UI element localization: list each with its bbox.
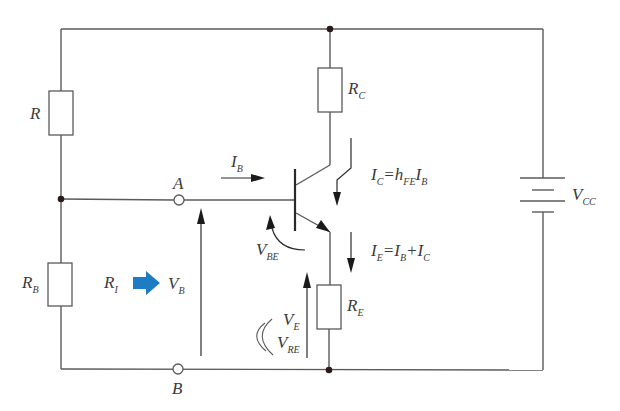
- collector-lead: [296, 165, 330, 185]
- ic-arrow-line: [337, 138, 351, 195]
- resistor-r: [49, 91, 73, 135]
- vbe-arrow-line: [272, 228, 305, 250]
- label-re: RE: [346, 296, 364, 318]
- junction-dot-left: [58, 196, 65, 203]
- label-terminal-b: B: [172, 379, 183, 398]
- label-rb: RB: [21, 273, 39, 295]
- label-ib: IB: [230, 152, 243, 174]
- equivalence-icon: [257, 319, 273, 355]
- label-r: R: [29, 104, 41, 123]
- terminal-a: [174, 195, 184, 205]
- resistor-rb: [48, 263, 72, 306]
- base-wire-left: [61, 199, 174, 200]
- label-ri: RI: [103, 273, 118, 295]
- equation-ie: IE=IB+IC: [370, 241, 430, 263]
- ic-arrow-icon: [333, 192, 341, 206]
- blue-right-arrow-icon: [133, 271, 160, 295]
- equation-ic: IC=hFEIB: [370, 165, 427, 187]
- circuit-diagram: R RB RC RE VCC RI VB A B IB VBE VE VRE I…: [0, 0, 620, 411]
- battery-vcc: [520, 178, 565, 212]
- ib-arrow-icon: [251, 174, 265, 182]
- ie-arrow-icon: [347, 258, 355, 273]
- vb-arrow-icon: [197, 208, 205, 224]
- junction-dot-bottom: [326, 367, 333, 374]
- label-vb: VB: [168, 274, 185, 296]
- label-terminal-a: A: [172, 174, 184, 193]
- label-vre: VRE: [277, 333, 300, 355]
- vbe-arrow-icon: [266, 215, 275, 230]
- resistor-re: [317, 285, 341, 329]
- label-vcc: VCC: [572, 185, 596, 207]
- label-ve: VE: [283, 310, 300, 332]
- resistor-rc: [318, 68, 342, 112]
- bottom-rail-wire: [61, 369, 543, 370]
- terminal-b: [173, 364, 183, 374]
- wires: [61, 29, 543, 370]
- ve-arrow-icon: [303, 272, 311, 288]
- label-rc: RC: [347, 79, 365, 101]
- junction-dot-top: [327, 26, 334, 33]
- emitter-arrow-icon: [316, 220, 330, 232]
- label-vbe: VBE: [256, 240, 279, 262]
